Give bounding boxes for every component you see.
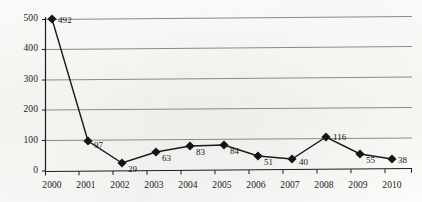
x-tick-label-2008: 2008 bbox=[305, 181, 343, 191]
data-point-marker bbox=[321, 132, 330, 141]
y-tick-label-500: 500 bbox=[12, 14, 38, 24]
data-point-marker bbox=[387, 154, 396, 163]
data-point-marker bbox=[47, 14, 56, 23]
data-point-marker bbox=[117, 158, 126, 167]
x-tick-label-2004: 2004 bbox=[169, 181, 207, 191]
x-tick-label-2000: 2000 bbox=[33, 181, 71, 191]
data-point-marker bbox=[253, 151, 262, 160]
y-tick-label-200: 200 bbox=[12, 105, 38, 115]
x-tick-label-2001: 2001 bbox=[67, 181, 105, 191]
data-point-marker bbox=[287, 154, 296, 163]
x-tick-label-2006: 2006 bbox=[237, 181, 275, 191]
data-point-marker bbox=[151, 147, 160, 156]
x-tick-label-2010: 2010 bbox=[373, 181, 411, 191]
data-point-marker bbox=[185, 141, 194, 150]
x-tick-label-2005: 2005 bbox=[203, 181, 241, 191]
x-tick-label-2007: 2007 bbox=[271, 181, 309, 191]
data-label-2000: 492 bbox=[58, 16, 72, 25]
y-tick-label-400: 400 bbox=[12, 44, 38, 54]
line-chart-figure: 500 400 300 200 100 0 2000 2001 2002 200… bbox=[0, 0, 422, 202]
x-tick-label-2003: 2003 bbox=[135, 181, 173, 191]
data-label-2005: 84 bbox=[230, 147, 239, 156]
y-tick-label-300: 300 bbox=[12, 75, 38, 85]
x-tick-label-2009: 2009 bbox=[339, 181, 377, 191]
data-label-2009: 55 bbox=[366, 156, 375, 165]
data-label-2004: 83 bbox=[196, 148, 205, 157]
gridlines bbox=[46, 17, 413, 141]
chart-plot-area bbox=[0, 0, 422, 202]
y-tick-label-0: 0 bbox=[12, 166, 38, 176]
data-point-marker bbox=[355, 149, 364, 158]
x-tick-label-2002: 2002 bbox=[101, 181, 139, 191]
data-point-marker bbox=[83, 136, 92, 145]
data-label-2010: 38 bbox=[398, 156, 407, 165]
y-tick-label-100: 100 bbox=[12, 136, 38, 146]
data-point-marker bbox=[219, 140, 228, 149]
x-axis bbox=[46, 169, 413, 172]
data-label-2007: 40 bbox=[299, 158, 308, 167]
data-label-2008: 116 bbox=[333, 133, 346, 142]
data-label-2006: 51 bbox=[264, 158, 273, 167]
data-label-2002: 29 bbox=[128, 165, 137, 174]
data-label-2003: 63 bbox=[162, 154, 171, 163]
data-label-2001: 97 bbox=[94, 141, 103, 150]
